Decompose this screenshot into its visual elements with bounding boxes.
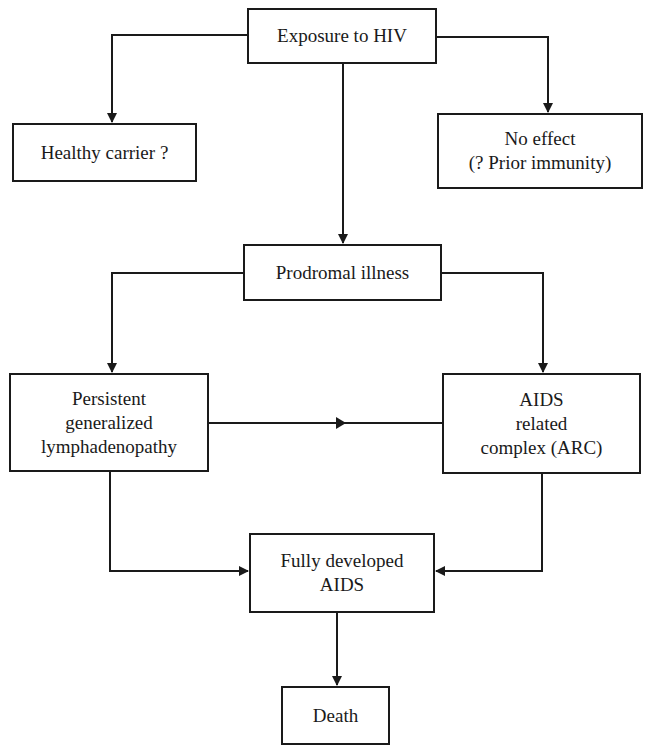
- node-aids-related-complex: AIDS related complex (ARC): [442, 373, 641, 474]
- node-label: Death: [313, 704, 358, 728]
- edge-exposure-to-healthy-carrier: [112, 35, 247, 122]
- node-fully-developed-aids: Fully developed AIDS: [249, 533, 435, 613]
- node-label-line-2: related: [516, 412, 568, 436]
- edge-exposure-to-no-effect: [437, 37, 548, 112]
- node-exposure-to-hiv: Exposure to HIV: [247, 8, 437, 64]
- node-label-line-1: Persistent: [72, 387, 146, 411]
- node-death: Death: [281, 686, 390, 745]
- node-label-line-1: AIDS: [519, 388, 563, 412]
- node-label: Prodromal illness: [276, 261, 410, 285]
- node-label-line-2: AIDS: [320, 573, 364, 597]
- node-healthy-carrier: Healthy carrier ?: [12, 123, 197, 182]
- node-label-line-1: No effect: [505, 127, 576, 151]
- edge-pgl-to-full-aids: [110, 472, 248, 571]
- node-prodromal-illness: Prodromal illness: [243, 244, 442, 301]
- node-label-line-3: lymphadenopathy: [41, 435, 177, 459]
- node-label-line-1: Fully developed: [281, 549, 404, 573]
- node-label: Exposure to HIV: [277, 24, 407, 48]
- node-no-effect: No effect (? Prior immunity): [437, 113, 643, 189]
- node-label-line-3: complex (ARC): [481, 436, 603, 460]
- edge-prodromal-to-pgl: [112, 273, 243, 372]
- edge-prodromal-to-arc: [442, 273, 543, 372]
- node-persistent-generalized-lymphadenopathy: Persistent generalized lymphadenopathy: [9, 373, 209, 472]
- node-label: Healthy carrier ?: [41, 141, 169, 165]
- node-label-line-2: generalized: [65, 411, 153, 435]
- edge-arc-to-full-aids: [436, 474, 542, 571]
- node-label-line-2: (? Prior immunity): [469, 151, 611, 175]
